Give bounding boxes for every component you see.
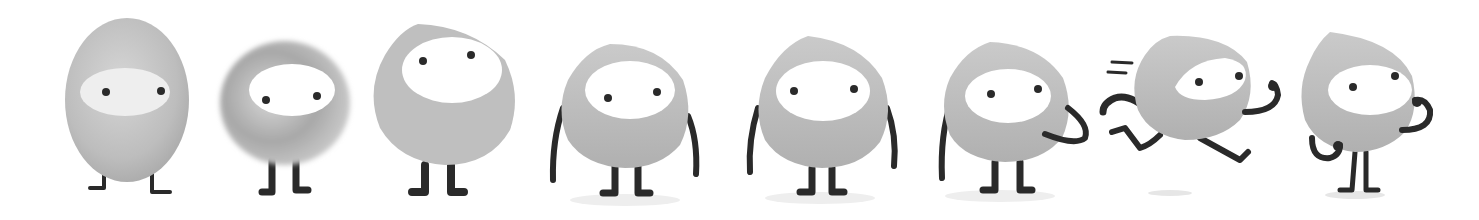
character-lineup (0, 0, 1479, 220)
character-7-running (1103, 36, 1278, 196)
character-4-arms-down (553, 44, 696, 206)
character-6-hand-on-belly (942, 42, 1086, 202)
character-2-blurry (220, 41, 350, 192)
character-5-arms-down (750, 36, 895, 204)
character-8-thinking (1301, 32, 1430, 199)
character-sheet (0, 0, 1479, 220)
character-1-egg (65, 18, 189, 192)
character-3-flat-round (374, 24, 515, 192)
